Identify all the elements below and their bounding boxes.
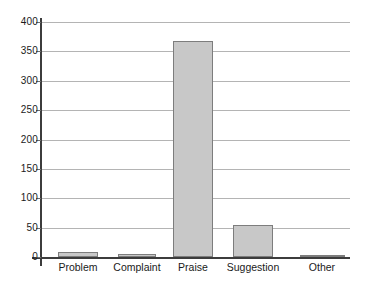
y-tick-label-0: 0 (4, 252, 38, 262)
y-tick-label-400: 400 (4, 17, 38, 27)
gridline-400 (41, 22, 350, 23)
y-tick-label-350: 350 (4, 46, 38, 56)
bar-praise (173, 41, 213, 257)
x-axis-category-labels: Problem Complaint Praise Suggestion Othe… (41, 261, 350, 281)
x-axis-line (32, 257, 350, 259)
plot-area (41, 22, 350, 257)
y-tick-label-150: 150 (4, 164, 38, 174)
bar-suggestion (233, 225, 273, 257)
bar-chart: 400 350 300 250 200 150 100 50 0 Problem… (0, 0, 376, 293)
x-label-praise: Praise (163, 261, 223, 273)
y-tick-label-100: 100 (4, 193, 38, 203)
x-label-other: Other (293, 261, 351, 273)
x-label-suggestion: Suggestion (215, 261, 291, 273)
y-axis-line (40, 18, 42, 266)
y-tick-label-250: 250 (4, 105, 38, 115)
y-tick-label-50: 50 (4, 223, 38, 233)
y-tick-label-200: 200 (4, 135, 38, 145)
y-axis-ticks: 400 350 300 250 200 150 100 50 0 (0, 0, 38, 293)
y-tick-label-300: 300 (4, 76, 38, 86)
